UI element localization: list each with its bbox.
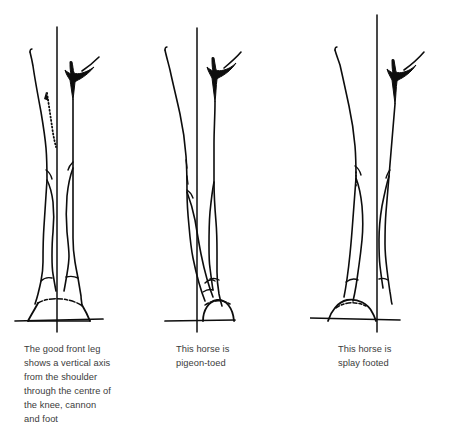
panel-splay-footed bbox=[310, 0, 452, 340]
right-foreleg-outline bbox=[214, 102, 222, 306]
chest-shoulder-mass bbox=[207, 58, 236, 102]
left-fetlock bbox=[41, 278, 52, 281]
caption-pigeon-toed: This horse is pigeon-toed bbox=[176, 342, 306, 370]
panel-good-front-leg bbox=[0, 0, 160, 340]
coronet-band bbox=[38, 299, 81, 305]
ground-line bbox=[165, 320, 235, 321]
dotted-axis-guide bbox=[47, 93, 56, 147]
panel-pigeon-toed bbox=[160, 0, 310, 340]
caption-splay-footed: This horse is splay footed bbox=[338, 342, 452, 370]
right-fetlock bbox=[379, 278, 388, 280]
hoof-wall-left bbox=[28, 303, 38, 321]
right-foreleg-outline bbox=[73, 100, 82, 306]
splay-footed-drawing bbox=[310, 0, 452, 340]
right-foreleg-outline bbox=[385, 104, 395, 304]
left-fetlock bbox=[205, 280, 215, 283]
right-leg-inner-contour bbox=[64, 168, 73, 291]
left-shoulder-point bbox=[335, 47, 337, 50]
ground-line bbox=[310, 318, 400, 320]
chest-shoulder-mass bbox=[387, 60, 416, 104]
left-shoulder-point bbox=[165, 47, 167, 50]
left-leg-inner-contour bbox=[47, 180, 56, 291]
horse-conformation-figure: The good front leg shows a vertical axis… bbox=[0, 0, 452, 426]
right-fetlock bbox=[66, 276, 78, 278]
left-shoulder-point bbox=[30, 49, 32, 52]
left-foreleg-outline bbox=[165, 50, 205, 301]
left-foreleg-outline bbox=[30, 52, 47, 304]
good-front-leg-drawing bbox=[0, 0, 160, 340]
pigeon-toed-drawing bbox=[160, 0, 310, 340]
chest-shoulder-mass bbox=[65, 62, 94, 100]
caption-good-front-leg: The good front leg shows a vertical axis… bbox=[24, 342, 156, 426]
right-leg-inner-contour bbox=[209, 182, 214, 290]
left-foreleg-outline bbox=[335, 50, 356, 297]
